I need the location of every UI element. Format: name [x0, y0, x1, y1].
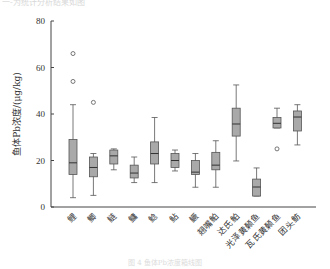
x-category-label: 鳙 — [126, 211, 139, 224]
box-plot-chart: 020406080鱼体Pb浓度/(μg/kg)鲤鲫鲢鳙鲶鲇鳜翘嘴鲌达氏鲌光泽黄颡… — [0, 0, 330, 269]
box-iqr — [232, 108, 240, 136]
outlier-point — [71, 79, 75, 83]
box-iqr — [130, 165, 138, 178]
x-category-label: 鲤 — [65, 211, 78, 224]
outlier-point — [275, 147, 279, 151]
outlier-point — [71, 52, 75, 56]
outlier-point — [91, 100, 95, 104]
x-category-label: 鳜 — [187, 211, 200, 224]
y-axis-label: 鱼体Pb浓度/(μg/kg) — [11, 72, 22, 156]
box-iqr — [253, 179, 261, 196]
x-category-label: 鲇 — [167, 211, 180, 224]
box-iqr — [273, 117, 281, 127]
box-iqr — [110, 150, 118, 164]
box-iqr — [151, 142, 159, 164]
box-iqr — [212, 152, 220, 169]
figure-caption: 图 4 鱼体Pb浓度箱线图 — [0, 257, 330, 267]
x-category-label: 鲫 — [85, 211, 98, 224]
y-tick-label: 80 — [36, 16, 46, 26]
box-iqr — [89, 157, 97, 177]
x-category-label: 鲶 — [147, 211, 160, 224]
y-tick-label: 40 — [36, 109, 46, 119]
x-category-label: 团头鲂 — [277, 211, 303, 237]
x-category-label: 鲢 — [106, 211, 119, 224]
box-iqr — [69, 140, 77, 175]
y-tick-label: 60 — [36, 63, 46, 73]
y-tick-label: 20 — [36, 156, 46, 166]
y-tick-label: 0 — [41, 202, 46, 212]
box-iqr — [293, 111, 301, 131]
